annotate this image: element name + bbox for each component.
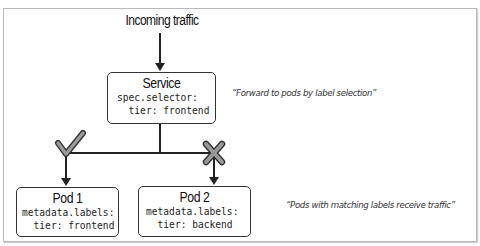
service-selector-line: spec.selector: bbox=[108, 91, 215, 104]
pod2-title: Pod 2 bbox=[146, 189, 244, 205]
service-box: Service spec.selector: tier: frontend bbox=[107, 72, 216, 124]
pod1-arrow bbox=[61, 153, 71, 186]
service-title: Service bbox=[114, 75, 208, 91]
service-tier-line: tier: frontend bbox=[108, 104, 215, 117]
checkmark-icon bbox=[58, 133, 83, 154]
pod1-labels-line: metadata.labels: bbox=[17, 206, 118, 219]
pod2-box: Pod 2 metadata.labels: tier: backend bbox=[138, 186, 251, 237]
pods-annotation: “Pods with matching labels receive traff… bbox=[286, 200, 455, 210]
pod2-tier-line: tier: backend bbox=[139, 218, 250, 231]
service-annotation: “Forward to pods by label selection” bbox=[232, 88, 376, 98]
incoming-arrow bbox=[155, 33, 165, 71]
pod1-tier-line: tier: frontend bbox=[17, 219, 118, 232]
pod1-box: Pod 1 metadata.labels: tier: frontend bbox=[16, 187, 119, 237]
pod1-title: Pod 1 bbox=[23, 190, 112, 206]
pod2-labels-line: metadata.labels: bbox=[139, 205, 250, 218]
